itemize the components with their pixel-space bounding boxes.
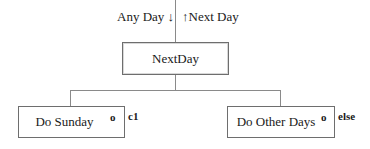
condition-label: else [338, 110, 355, 122]
right-branch-stem [280, 90, 281, 106]
input-flow-label: Any Day ↓ [117, 9, 174, 25]
root-node-nextday: NextDay [122, 42, 229, 75]
branch-bus-line [70, 90, 281, 91]
child-node-label: Do Other Days [237, 114, 316, 130]
output-flow-text: Next Day [189, 9, 239, 24]
child-node-label: Do Sunday [35, 114, 93, 130]
root-node-label: NextDay [152, 51, 199, 67]
condition-label: c1 [128, 110, 138, 122]
input-connector-line [175, 0, 176, 42]
output-flow-label: ↑Next Day [182, 9, 239, 25]
arrow-down-icon: ↓ [168, 9, 175, 24]
root-stem-line [175, 75, 176, 90]
child-node-do-sunday: Do Sunday [18, 106, 125, 138]
left-branch-stem [70, 90, 71, 106]
input-flow-text: Any Day [117, 9, 164, 24]
child-node-do-other-days: Do Other Days [227, 106, 335, 138]
selection-marker: o [321, 111, 327, 123]
selection-marker: o [110, 111, 116, 123]
